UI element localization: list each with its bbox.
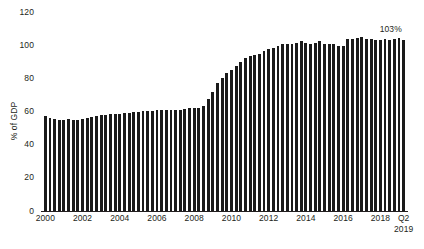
- bar: [132, 112, 135, 211]
- bar: [272, 48, 275, 211]
- bar: [398, 38, 401, 211]
- bar: [323, 44, 326, 211]
- bar: [388, 40, 391, 211]
- bar: [318, 41, 321, 211]
- bar: [207, 99, 210, 211]
- bar: [337, 46, 340, 211]
- bar: [360, 37, 363, 211]
- bar: [235, 66, 238, 211]
- x-axis-tick-label: 2004: [103, 213, 137, 223]
- bar: [188, 108, 191, 211]
- bar: [104, 115, 107, 211]
- bar: [244, 58, 247, 211]
- bar: [384, 39, 387, 211]
- bar: [165, 110, 168, 211]
- bar: [118, 114, 121, 212]
- y-axis-tick-label: 20: [8, 173, 34, 182]
- y-axis-tick-label: 100: [8, 41, 34, 50]
- bar: [137, 112, 140, 211]
- bar: [291, 44, 294, 211]
- bar: [193, 108, 196, 211]
- bar: [365, 39, 368, 211]
- bar: [72, 120, 75, 211]
- value-annotation: 103%: [380, 24, 402, 34]
- bar: [253, 55, 256, 211]
- bar: [95, 116, 98, 211]
- bar: [146, 111, 149, 211]
- bar: [86, 118, 89, 211]
- bar: [314, 43, 317, 211]
- plot-area: [43, 12, 406, 211]
- bar: [67, 119, 70, 211]
- bar: [249, 56, 252, 211]
- bar: [230, 70, 233, 211]
- bar: [281, 44, 284, 211]
- bar: [174, 110, 177, 211]
- bar: [356, 38, 359, 211]
- bar: [258, 54, 261, 211]
- y-axis-tick-label: 40: [8, 140, 34, 149]
- bar: [179, 110, 182, 211]
- bar: [286, 44, 289, 211]
- bar: [62, 120, 65, 211]
- bar: [379, 40, 382, 211]
- x-axis-tick-label: 2014: [289, 213, 323, 223]
- bar: [44, 116, 47, 211]
- bar: [221, 78, 224, 211]
- bar: [90, 117, 93, 211]
- x-axis-tick-label: 2008: [177, 213, 211, 223]
- bar: [216, 83, 219, 211]
- x-axis-tick-label: 2012: [252, 213, 286, 223]
- bar: [263, 51, 266, 211]
- bar: [160, 110, 163, 211]
- bar: [100, 115, 103, 211]
- bar: [225, 73, 228, 211]
- bar: [114, 114, 117, 211]
- bar: [309, 44, 312, 211]
- bar: [49, 118, 52, 211]
- bar: [76, 120, 79, 211]
- bar: [123, 113, 126, 211]
- bar: [53, 119, 56, 211]
- x-axis-tick-label: Q2: [387, 213, 421, 223]
- bar: [211, 92, 214, 211]
- bar: [342, 46, 345, 212]
- x-axis-tick-label: 2000: [28, 213, 62, 223]
- bar: [402, 40, 405, 211]
- debt-to-gdp-bar-chart: % of GDP 020406080100120 200020022004200…: [0, 0, 424, 249]
- x-axis-tick-label: 2006: [140, 213, 174, 223]
- bar: [170, 110, 173, 211]
- bar: [267, 49, 270, 211]
- bar: [58, 120, 61, 211]
- x-axis-tick-sublabel: 2019: [387, 224, 421, 234]
- y-axis-tick-label: 120: [8, 8, 34, 17]
- bar: [328, 44, 331, 211]
- bar: [374, 40, 377, 211]
- x-axis-tick-label: 2016: [326, 213, 360, 223]
- bar: [156, 110, 159, 211]
- bar: [151, 111, 154, 211]
- bar: [277, 46, 280, 211]
- bar: [197, 108, 200, 211]
- bar: [239, 62, 242, 211]
- bar: [81, 119, 84, 211]
- bar: [351, 39, 354, 211]
- bar: [300, 41, 303, 211]
- bar: [370, 39, 373, 211]
- x-axis-tick-label: 2002: [66, 213, 100, 223]
- bar: [304, 43, 307, 211]
- bar: [393, 39, 396, 211]
- x-axis-line: [41, 211, 408, 212]
- bar: [183, 109, 186, 211]
- bar: [295, 43, 298, 211]
- y-axis-tick-label: 60: [8, 107, 34, 116]
- bar: [128, 113, 131, 212]
- bar: [346, 39, 349, 211]
- y-axis-tick-label: 80: [8, 74, 34, 83]
- bar: [109, 114, 112, 211]
- bar: [142, 111, 145, 211]
- x-axis-tick-label: 2010: [214, 213, 248, 223]
- bar: [202, 106, 205, 211]
- bar: [332, 44, 335, 211]
